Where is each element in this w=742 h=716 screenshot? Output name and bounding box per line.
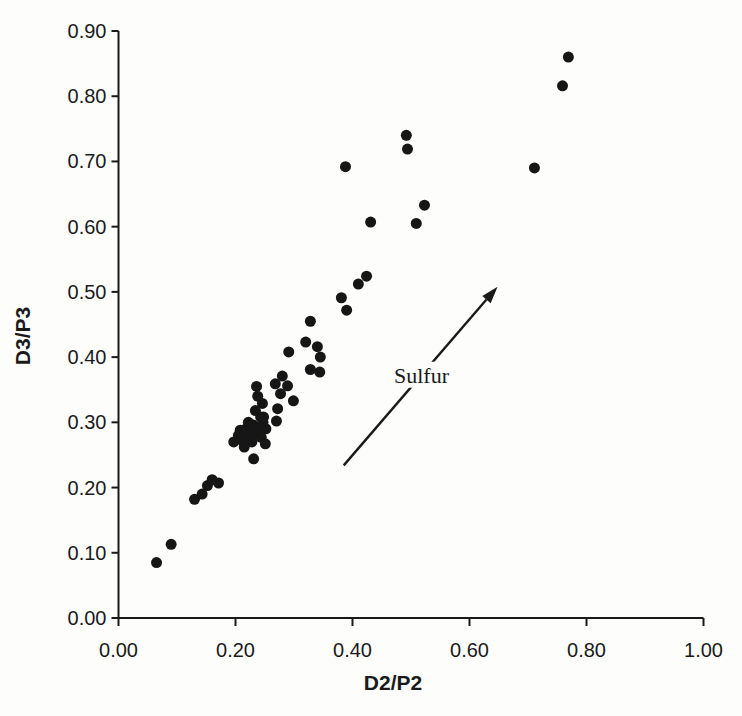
data-points xyxy=(151,52,574,568)
y-tick-label: 0.80 xyxy=(68,85,107,107)
data-point xyxy=(315,352,326,363)
data-point xyxy=(213,477,224,488)
data-point xyxy=(353,279,364,290)
data-point xyxy=(151,557,162,568)
y-tick-label: 0.50 xyxy=(68,281,107,303)
data-point xyxy=(277,371,288,382)
data-point xyxy=(248,453,259,464)
x-tick-label: 0.80 xyxy=(567,639,606,661)
y-tick-label: 0.10 xyxy=(68,542,107,564)
data-point xyxy=(282,380,293,391)
data-point xyxy=(260,438,271,449)
data-point xyxy=(314,367,325,378)
scatter-figure: 0.000.100.200.300.400.500.600.700.800.90… xyxy=(0,0,742,716)
sulfur-label: Sulfur xyxy=(394,363,450,388)
data-point xyxy=(341,305,352,316)
y-tick-label: 0.90 xyxy=(68,20,107,42)
axis-ticks xyxy=(112,31,704,626)
scatter-plot: 0.000.100.200.300.400.500.600.700.800.90… xyxy=(0,0,742,716)
data-point xyxy=(305,316,316,327)
y-tick-label: 0.70 xyxy=(68,150,107,172)
data-point xyxy=(557,80,568,91)
data-point xyxy=(336,292,347,303)
data-point xyxy=(563,52,574,63)
data-point xyxy=(529,162,540,173)
data-point xyxy=(300,337,311,348)
data-point xyxy=(272,403,283,414)
y-tick-label: 0.60 xyxy=(68,216,107,238)
y-axis-title: D3/P3 xyxy=(11,307,34,365)
x-tick-label: 0.60 xyxy=(450,639,489,661)
x-tick-label: 0.40 xyxy=(333,639,372,661)
x-tick-label: 0.20 xyxy=(216,639,255,661)
data-point xyxy=(365,217,376,228)
y-tick-label: 0.30 xyxy=(68,411,107,433)
y-tick-label: 0.20 xyxy=(68,477,107,499)
data-point xyxy=(361,271,372,282)
data-point xyxy=(401,130,412,141)
x-tick-label: 1.00 xyxy=(684,639,723,661)
data-point xyxy=(340,161,351,172)
data-point xyxy=(411,218,422,229)
tick-labels: 0.000.100.200.300.400.500.600.700.800.90… xyxy=(68,20,723,661)
data-point xyxy=(255,412,266,423)
data-point xyxy=(260,423,271,434)
data-point xyxy=(402,144,413,155)
data-point xyxy=(166,539,177,550)
sulfur-arrow-annotation: Sulfur xyxy=(344,287,498,466)
data-point xyxy=(312,341,323,352)
y-tick-label: 0.40 xyxy=(68,346,107,368)
data-point xyxy=(271,416,282,427)
data-point xyxy=(305,364,316,375)
axes xyxy=(118,31,704,618)
data-point xyxy=(419,200,430,211)
data-point xyxy=(283,346,294,357)
data-point xyxy=(251,381,262,392)
x-axis-title: D2/P2 xyxy=(364,671,422,694)
data-point xyxy=(288,395,299,406)
x-tick-label: 0.00 xyxy=(99,639,138,661)
y-tick-label: 0.00 xyxy=(68,607,107,629)
